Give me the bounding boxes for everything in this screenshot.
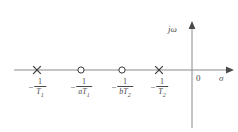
zero-label-2: − 1 bT2 (111, 78, 133, 99)
fraction-numerator: 1 (36, 78, 44, 86)
fraction: 1 aT1 (76, 78, 91, 99)
minus-sign: − (28, 83, 33, 93)
fraction-numerator: 1 (121, 78, 129, 86)
fraction-numerator: 1 (80, 78, 88, 86)
denominator-subscript: 1 (87, 92, 90, 98)
denominator-subscript: 1 (41, 92, 44, 98)
denominator-subscript: 2 (163, 92, 166, 98)
denominator-base: bT (119, 87, 127, 96)
fraction-numerator: 1 (158, 78, 166, 86)
real-axis-arrowhead (226, 67, 234, 74)
imaginary-axis-arrowhead (189, 21, 196, 29)
axes-and-markers (0, 0, 238, 132)
real-axis-label: σ (219, 74, 223, 83)
fraction: 1 T1 (34, 78, 45, 99)
fraction-denominator: T1 (34, 87, 45, 98)
denominator-subscript: 2 (128, 92, 131, 98)
pole-label-1: − 1 T1 (28, 78, 46, 99)
denominator-base: aT (78, 87, 86, 96)
fraction-denominator: T2 (156, 87, 167, 98)
zero-marker-1 (78, 67, 84, 73)
imaginary-axis-label: jω (168, 25, 177, 34)
minus-sign: − (111, 83, 116, 93)
zero-label-1: − 1 aT1 (70, 78, 92, 99)
origin-label: 0 (196, 74, 201, 83)
minus-sign: − (150, 83, 155, 93)
pole-label-2: − 1 T2 (150, 78, 168, 99)
fraction: 1 bT2 (117, 78, 132, 99)
imaginary-axis (189, 21, 196, 128)
fraction-denominator: bT2 (117, 87, 132, 98)
minus-sign: − (70, 83, 75, 93)
fraction-denominator: aT1 (76, 87, 91, 98)
fraction: 1 T2 (156, 78, 167, 99)
pole-zero-plot: jω σ 0 − 1 T1 − 1 aT1 − 1 bT2 − 1 (0, 0, 238, 132)
zero-marker-2 (119, 67, 125, 73)
